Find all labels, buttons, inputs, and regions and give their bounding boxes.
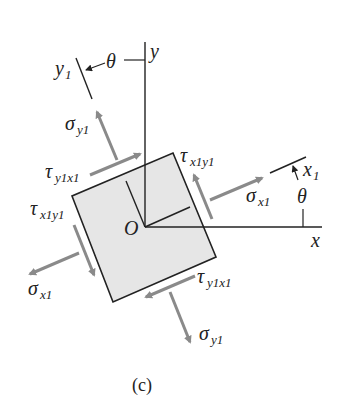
svg-text:1: 1 — [65, 67, 72, 82]
svg-text:τ: τ — [180, 144, 188, 166]
y-axis-label: y — [148, 40, 159, 63]
sigma-y1-bottom-arrow — [170, 292, 190, 342]
sigma-x1-left-arrow — [30, 253, 79, 274]
sigma-x1-right-label: σ x1 — [246, 184, 270, 209]
sigma-y1-bottom-label: σ y1 — [199, 322, 223, 347]
stress-element-diagram: y x O y 1 x 1 θ θ σ y1 τ y1x1 τ x1y1 σ x… — [0, 0, 342, 417]
sigma-x1-left-label: σ x1 — [28, 277, 52, 302]
tau-x1y1-right-label: τ x1y1 — [180, 144, 215, 169]
svg-text:y1: y1 — [75, 122, 89, 137]
x1-axis-outer — [270, 157, 306, 173]
svg-text:y1: y1 — [209, 332, 223, 347]
svg-text:x1y1: x1y1 — [189, 154, 215, 169]
x1-axis-label: x 1 — [302, 158, 320, 183]
svg-text:1: 1 — [313, 168, 320, 183]
svg-text:y1x1: y1x1 — [53, 170, 80, 185]
svg-text:σ: σ — [28, 277, 39, 299]
tau-y1x1-bottom-label: τ y1x1 — [197, 265, 232, 290]
y1-axis-outer — [76, 58, 92, 99]
svg-text:σ: σ — [65, 112, 76, 134]
svg-text:τ: τ — [45, 160, 53, 182]
tau-x1y1-left-label: τ x1y1 — [30, 197, 65, 222]
origin-label: O — [124, 217, 138, 239]
y1-axis-label: y 1 — [53, 57, 72, 82]
svg-text:y: y — [53, 57, 64, 80]
tau-y1x1-top-label: τ y1x1 — [45, 160, 80, 185]
sigma-y1-top-arrow — [97, 112, 117, 160]
x-axis-label: x — [310, 229, 320, 251]
svg-text:y1x1: y1x1 — [205, 275, 232, 290]
svg-text:x1: x1 — [257, 194, 270, 209]
svg-text:x1: x1 — [39, 287, 52, 302]
theta-label-top: θ — [106, 50, 116, 72]
svg-text:σ: σ — [246, 184, 257, 206]
theta-label-right: θ — [297, 185, 307, 207]
svg-text:x: x — [302, 158, 312, 180]
figure-caption: (c) — [132, 375, 152, 396]
svg-text:x1y1: x1y1 — [39, 207, 65, 222]
sigma-y1-top-label: σ y1 — [65, 112, 89, 137]
svg-text:σ: σ — [199, 322, 210, 344]
svg-text:τ: τ — [197, 265, 205, 287]
svg-text:τ: τ — [30, 197, 38, 219]
